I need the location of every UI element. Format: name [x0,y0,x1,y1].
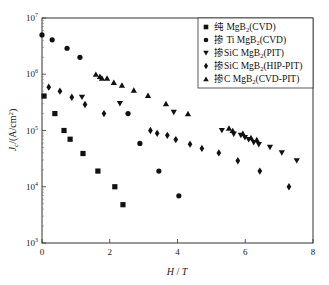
diamond-marker [69,94,74,101]
y-tick-labels: 107106105104103 [26,12,38,248]
triangle-up-marker [111,79,117,84]
circle-marker [77,55,82,60]
y-tick-label: 106 [26,68,38,79]
diamond-marker [188,141,193,148]
x-tick-label: 0 [40,247,45,257]
circle-marker [156,168,161,173]
triangle-up-marker [93,71,99,76]
series-triangle-down [79,95,300,164]
circle-marker [64,46,69,51]
diamond-marker [257,167,262,174]
circle-marker [39,32,44,37]
square-marker [61,128,66,133]
diamond-marker [58,88,63,95]
jc-vs-field-chart: 107106105104103 02468 Jc/(A/cm2) H / T 纯… [0,0,329,285]
legend-label: 掺SiC MgB2(PIT) [214,47,284,59]
square-marker [204,25,209,30]
square-marker [112,184,117,189]
triangle-up-marker [226,125,232,130]
x-tick-labels: 02468 [40,247,316,257]
triangle-down-marker [171,110,177,115]
legend-label: 掺SiC MgB2(HIP-PIT) [214,60,302,72]
legend-item: 掺SiC MgB2(PIT) [203,47,284,59]
square-marker [52,111,57,116]
legend: 纯 MgB2(CVD)掺 Ti MgB2(CVD)掺SiC MgB2(PIT)掺… [198,18,313,88]
circle-marker [176,193,181,198]
diamond-marker [173,136,178,143]
y-axis-title: Jc/(A/cm2) [7,109,20,152]
triangle-up-marker [145,93,151,98]
square-marker [95,168,100,173]
diamond-marker [102,110,107,117]
circle-marker [125,111,130,116]
diamond-marker [200,145,205,152]
diamond-marker [235,157,240,164]
triangle-up-marker [119,82,125,87]
diamond-marker [216,149,221,156]
x-tick-label: 6 [243,247,248,257]
triangle-down-marker [117,101,123,106]
y-tick-label: 103 [26,237,38,248]
x-tick-label: 8 [311,247,316,257]
diamond-marker [287,183,292,190]
circle-marker [204,38,209,43]
triangle-up-marker [163,101,169,106]
x-tick-label: 4 [175,247,180,257]
legend-label: 掺C MgB2(CVD-PIT) [214,73,299,85]
y-tick-label: 107 [26,12,38,23]
triangle-down-marker [219,128,225,133]
square-marker [41,93,46,98]
series-circle [39,32,181,198]
legend-item: 掺C MgB2(CVD-PIT) [203,73,299,85]
diamond-marker [155,130,160,137]
y-tick-label: 104 [26,181,38,192]
triangle-up-marker [254,137,260,142]
circle-marker [50,37,55,42]
series-diamond [46,83,291,190]
series-square [41,93,125,207]
legend-item: 纯 MgB2(CVD) [204,21,276,33]
circle-marker [137,141,142,146]
diamond-marker [165,132,170,139]
legend-label: 纯 MgB2(CVD) [214,21,276,33]
legend-item: 掺SiC MgB2(HIP-PIT) [204,60,303,72]
legend-label: 掺 Ti MgB2(CVD) [214,34,286,46]
diamond-marker [83,101,88,108]
x-axis-title: H / T [166,266,189,277]
triangle-down-marker [279,150,285,155]
diamond-marker [46,83,51,90]
x-tick-label: 2 [108,247,113,257]
triangle-down-marker [79,95,85,100]
diamond-marker [148,127,153,134]
triangle-down-marker [267,145,273,150]
y-tick-label: 105 [26,125,38,136]
triangle-down-marker [256,142,262,147]
square-marker [120,202,125,207]
square-marker [80,151,85,156]
triangle-down-marker [294,158,300,163]
triangle-up-marker [185,111,191,116]
square-marker [68,137,73,142]
triangle-up-marker [104,75,110,80]
legend-item: 掺 Ti MgB2(CVD) [204,34,286,46]
triangle-up-marker [131,87,137,92]
